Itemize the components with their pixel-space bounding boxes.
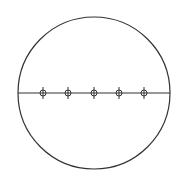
diagram-svg bbox=[0, 0, 185, 180]
diagram-canvas bbox=[0, 0, 185, 180]
